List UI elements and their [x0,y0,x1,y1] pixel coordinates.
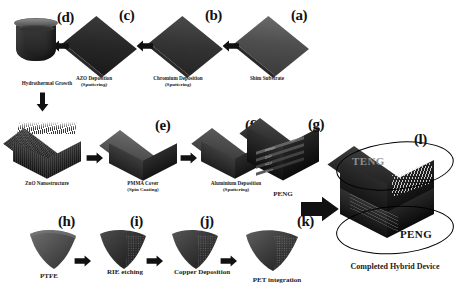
step-a-shim-substrate-shape [235,16,309,76]
arrow-right-e-to-f [180,152,198,164]
caption-text: PTFE [40,272,58,280]
caption-completed-hybrid-device: Completed Hybrid Device [330,262,460,273]
caption-hydrothermal-growth: Hydrothermal Growth [0,80,102,87]
step-d-hydrothermal-growth-beaker [14,18,58,66]
arrow-left-a-to-b [222,40,240,52]
teng-annotation-label: TENG [352,155,385,167]
caption-ptfe: PTFE [19,272,79,281]
panel-letter-e: (e) [155,118,170,133]
arrow-right-j-to-k [220,255,238,267]
plate-top-face [149,16,223,76]
arrow-right-h-to-i [74,255,92,267]
plate-top-face [235,16,309,76]
step-i-rie-etching-sheet [94,228,152,272]
panel-letter-h: (h) [58,214,75,229]
caption-text: Shim Substrate [250,75,284,81]
panel-letter-k: (k) [297,214,314,229]
peng-layer-label-shim: Shim [265,167,273,174]
arrow-left-b-to-c [136,40,154,52]
panel-letter-d: (d) [57,10,74,25]
step-c-azo-deposition-shape [63,16,137,76]
panel-letter-c: (c) [119,8,134,23]
peng-layer-label-zno: ZnO [265,153,272,159]
arrow-right-i-to-j [146,255,164,267]
step-e-pmma-cover-block [108,130,178,186]
panel-letter-b: (b) [205,8,222,23]
panel-letter-j: (j) [200,214,214,229]
plate-top-face [63,16,137,76]
caption-text: PMMA Cover [127,180,158,186]
peng-annotation-label: PENG [400,228,432,240]
fabrication-process-figure: (a) Shim Substrate (b) Chromium Depositi… [0,0,470,305]
step-j-copper-deposition-sheet [166,228,224,272]
caption-text: Chromium Deposition [153,75,202,81]
panel-letter-i: (i) [130,214,143,229]
caption-text: ZnO Nanostructure [25,180,69,186]
caption-text: RIE etching [107,268,143,276]
step-k-pet-integration-sheet [240,228,304,274]
step-b-chromium-deposition-shape [149,16,223,76]
caption-subtext: (Spin Coating) [98,187,188,194]
caption-zno-nanostructure: ZnO Nanostructure [0,180,97,187]
block-right-face [143,143,177,180]
panel-letter-a: (a) [291,8,307,23]
caption-pet-integration: PET integration [232,276,322,285]
caption-text: Completed Hybrid Device [351,262,440,271]
caption-rie-etching: RIE etching [86,268,164,277]
block-right-face [47,141,81,178]
arrow-right-zno-to-e [86,152,104,164]
panel-letter-l: (l) [414,132,427,147]
caption-text: PENG [273,190,292,198]
caption-text: PET integration [253,276,301,284]
peng-layer-label-azo: AZO [265,160,272,166]
caption-pmma-cover: PMMA Cover (Spin Coating) [98,180,188,194]
arrow-down-d-to-zno [36,92,49,112]
caption-text: Copper Deposition [174,268,230,276]
step-zno-nanostructure-block [12,128,82,184]
panel-letter-g: (g) [308,117,324,132]
beaker-liquid-surface [18,25,54,32]
caption-text: Hydrothermal Growth [22,80,72,86]
